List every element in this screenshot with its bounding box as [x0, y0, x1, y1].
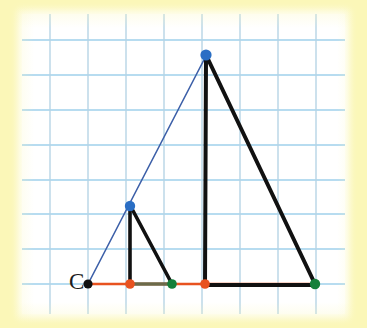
point-small-foot[interactable]: [125, 279, 135, 289]
point-large-foot[interactable]: [200, 279, 210, 289]
large-triangle-hypotenuse: [207, 57, 315, 284]
point-small-end[interactable]: [167, 279, 177, 289]
point-small-apex[interactable]: [125, 201, 135, 211]
pre-image-triangle: [130, 207, 172, 284]
point-large-apex[interactable]: [200, 49, 211, 60]
point-large-end[interactable]: [310, 279, 320, 289]
grid-vertical-lines: [50, 14, 316, 314]
point-C[interactable]: [83, 279, 92, 288]
diagram-stage: C: [0, 0, 367, 328]
large-triangle-vertical-leg: [205, 57, 206, 284]
small-triangle-hypotenuse: [131, 207, 172, 284]
label-C: C: [69, 270, 84, 293]
image-triangle: [205, 57, 315, 285]
geometry-figure: [0, 0, 367, 328]
